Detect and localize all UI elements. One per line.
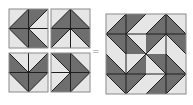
block-arrow-right xyxy=(146,54,186,94)
block-arrow-left xyxy=(9,9,48,48)
block-chevron-down xyxy=(106,54,146,94)
block-chevron-down xyxy=(9,53,48,92)
block-arrow-up xyxy=(146,14,186,54)
equals-sign: = xyxy=(92,47,100,56)
block-arrow-right xyxy=(51,53,90,92)
block-arrow-left xyxy=(106,14,146,54)
block-arrow-up xyxy=(51,9,90,48)
